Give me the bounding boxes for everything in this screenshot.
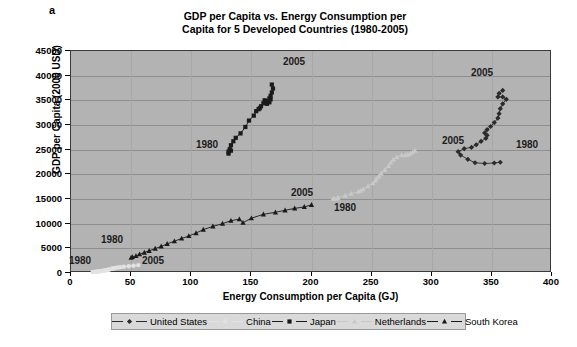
legend-item-japan[interactable]: Japan	[272, 316, 337, 327]
series-line	[131, 205, 311, 258]
legend-line-left	[112, 321, 123, 322]
data-point	[482, 161, 487, 166]
legend-line-right	[232, 321, 243, 322]
chart-title: GDP per Capita vs. Energy Consumption pe…	[130, 10, 460, 36]
legend-marker-square-icon	[285, 317, 294, 326]
annotation-1980: 1980	[334, 202, 356, 213]
legend-item-south-korea[interactable]: South Korea	[427, 316, 519, 327]
series-line	[458, 91, 506, 164]
data-point	[469, 145, 474, 150]
legend-line-left	[337, 321, 348, 322]
data-point	[127, 264, 131, 268]
legend-marker-triangle-icon	[350, 317, 359, 326]
legend-label: South Korea	[464, 316, 519, 327]
legend-label: Netherlands	[374, 316, 427, 327]
data-point	[127, 319, 132, 324]
series-line	[333, 151, 415, 199]
y-tick-label: 45000	[18, 45, 62, 56]
x-tick-label: 300	[423, 276, 439, 287]
data-point	[309, 202, 314, 207]
y-tick-label: 30000	[18, 119, 62, 130]
annotation-2005: 2005	[471, 67, 493, 78]
data-point	[270, 90, 274, 94]
data-point	[365, 183, 370, 188]
x-tick-label: 250	[363, 276, 379, 287]
x-tick-label: 350	[483, 276, 499, 287]
data-point	[193, 230, 198, 235]
data-point	[498, 160, 503, 165]
data-point	[247, 118, 251, 122]
data-point	[271, 86, 275, 90]
plot-area: 1980200520051980200519801980200519802005	[70, 50, 551, 272]
legend-label: United States	[149, 316, 208, 327]
legend-line-right	[296, 321, 307, 322]
x-tick-label: 50	[125, 276, 136, 287]
data-point	[287, 319, 291, 323]
legend-line-left	[427, 321, 438, 322]
y-tick-label: 0	[18, 267, 62, 278]
y-tick-label: 20000	[18, 168, 62, 179]
data-point	[243, 125, 247, 129]
legend-marker-diamond-icon	[125, 317, 134, 326]
x-tick-label: 400	[543, 276, 559, 287]
annotation-1980: 1980	[516, 139, 538, 150]
x-tick-label: 0	[67, 276, 72, 287]
chart-title-line-1: GDP per Capita vs. Energy Consumption pe…	[130, 10, 460, 23]
data-point	[234, 136, 238, 140]
annotation-2005: 2005	[442, 135, 464, 146]
data-point	[462, 146, 467, 151]
legend-marker-triangle-icon	[440, 317, 449, 326]
y-tick-label: 40000	[18, 69, 62, 80]
legend-item-united-states[interactable]: United States	[112, 316, 208, 327]
y-tick-label: 35000	[18, 94, 62, 105]
series-netherlands	[331, 148, 418, 201]
legend-item-netherlands[interactable]: Netherlands	[337, 316, 427, 327]
data-point	[465, 157, 470, 162]
y-axis-title: GDP per Capita (2000 USD)	[51, 10, 62, 210]
data-point	[270, 82, 274, 86]
legend-label: China	[245, 316, 272, 327]
y-tick-label: 25000	[18, 143, 62, 154]
data-point	[122, 264, 126, 268]
legend-item-china[interactable]: China	[208, 316, 272, 327]
data-point	[238, 131, 242, 135]
data-point	[229, 143, 233, 147]
data-point	[412, 148, 417, 153]
x-tick-label: 100	[182, 276, 198, 287]
annotation-2005: 2005	[283, 56, 305, 67]
legend-line-right	[136, 321, 147, 322]
data-point	[131, 263, 135, 267]
y-tick-label: 15000	[18, 193, 62, 204]
annotation-1980: 1980	[196, 139, 218, 150]
legend-line-left	[272, 321, 283, 322]
x-tick-label: 150	[242, 276, 258, 287]
series-layer	[71, 51, 552, 273]
y-tick-label: 10000	[18, 217, 62, 228]
data-point	[391, 157, 396, 162]
series-south-korea	[129, 202, 315, 260]
data-point	[361, 186, 366, 191]
x-axis-title: Energy Consumption per Capita (GJ)	[70, 291, 551, 302]
data-point	[252, 114, 256, 118]
legend-line-left	[208, 321, 219, 322]
legend-label: Japan	[309, 316, 337, 327]
data-point	[136, 263, 140, 267]
data-point	[228, 147, 232, 151]
data-point	[442, 319, 447, 324]
annotation-2005: 2005	[142, 255, 164, 266]
annotation-1980: 1980	[69, 255, 91, 266]
data-point	[496, 111, 501, 116]
series-united-states	[456, 88, 509, 166]
chart-legend[interactable]: United StatesChinaJapanNetherlandsSouth …	[111, 313, 466, 330]
data-point	[472, 160, 477, 165]
x-tick-label: 200	[303, 276, 319, 287]
annotation-2005: 2005	[291, 187, 313, 198]
y-tick-label: 5000	[18, 242, 62, 253]
data-point	[498, 106, 503, 111]
data-point	[492, 160, 497, 165]
legend-line-right	[451, 321, 462, 322]
legend-line-right	[361, 321, 372, 322]
chart-figure: a GDP per Capita vs. Energy Consumption …	[0, 0, 577, 347]
data-point	[223, 319, 227, 323]
legend-marker-circle-icon	[221, 317, 230, 326]
